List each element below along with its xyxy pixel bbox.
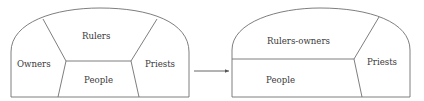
before-divider-rulers-priests xyxy=(131,19,157,61)
label-priests: Priests xyxy=(145,59,175,69)
label-people-after: People xyxy=(266,75,295,85)
after-divider-people-priests xyxy=(354,59,362,97)
before-divider-owners-rulers xyxy=(43,19,66,61)
before-divider-people-priests xyxy=(131,61,139,97)
label-rulers: Rulers xyxy=(82,31,110,41)
society-structure-diagram: Rulers Owners Priests People Rulers-owne… xyxy=(0,0,424,101)
label-rulers-owners: Rulers-owners xyxy=(267,36,330,46)
label-owners: Owners xyxy=(17,59,51,69)
label-priests-after: Priests xyxy=(367,57,397,67)
before-divider-owners-people xyxy=(58,61,66,97)
before-diagram: Rulers Owners Priests People xyxy=(11,8,189,97)
label-people: People xyxy=(84,75,113,85)
after-outline xyxy=(232,8,410,97)
after-diagram: Rulers-owners People Priests xyxy=(232,8,410,97)
after-divider-rulers-priests xyxy=(354,17,379,59)
